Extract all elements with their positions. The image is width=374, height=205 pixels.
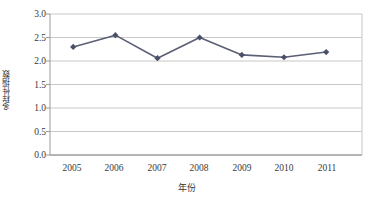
data-point-marker bbox=[197, 34, 203, 40]
data-point-marker bbox=[239, 52, 245, 58]
data-point-marker bbox=[281, 54, 287, 60]
line-chart: 多样性指数 年份 0.0 0.5 1.0 1.5 2.0 2.5 3.0 200… bbox=[0, 0, 374, 205]
y-axis-ticks bbox=[46, 14, 50, 155]
data-point-marker bbox=[323, 49, 329, 55]
data-point-marker bbox=[70, 44, 76, 50]
data-point-marker bbox=[154, 55, 160, 61]
gridlines bbox=[50, 14, 362, 155]
plot-area bbox=[0, 0, 374, 205]
